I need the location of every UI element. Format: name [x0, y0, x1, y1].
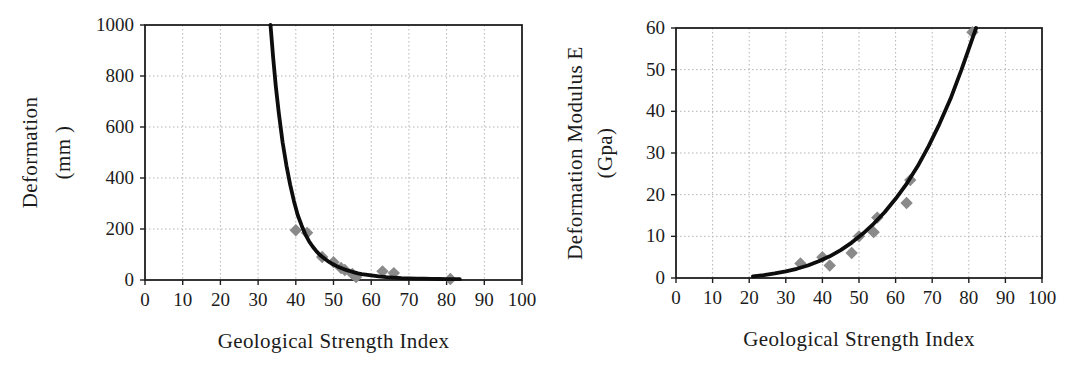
- x-tick-label: 60: [886, 287, 905, 308]
- x-tick-label: 10: [703, 287, 722, 308]
- y-tick-label: 60: [646, 17, 665, 38]
- y-tick-label: 400: [106, 167, 135, 188]
- x-tick-label: 80: [437, 289, 456, 310]
- y-tick-label: 1000: [96, 14, 134, 35]
- y-axis-title-line: Deformation: [18, 97, 42, 209]
- x-tick-label: 100: [1028, 287, 1057, 308]
- x-tick-label: 70: [399, 289, 418, 310]
- x-tick-label: 90: [475, 289, 494, 310]
- trend-curve: [271, 25, 460, 279]
- trend-curve: [753, 28, 976, 276]
- data-point-marker: [900, 197, 912, 209]
- x-tick-label: 0: [671, 287, 681, 308]
- y-axis-title-line: Deformation Modulus E: [563, 46, 587, 260]
- x-tick-label: 40: [813, 287, 832, 308]
- x-tick-label: 60: [362, 289, 381, 310]
- x-tick-label: 40: [286, 289, 305, 310]
- x-tick-label: 80: [959, 287, 978, 308]
- data-point-marker: [845, 247, 857, 259]
- y-tick-label: 20: [646, 184, 665, 205]
- modulus-vs-gsi-chart: 01020304050607080901000102030405060Geolo…: [540, 0, 1080, 379]
- x-tick-label: 30: [249, 289, 268, 310]
- x-tick-label: 30: [776, 287, 795, 308]
- two-panel-chart-figure: 010203040506070809010002004006008001000G…: [0, 0, 1080, 379]
- x-tick-label: 0: [140, 289, 150, 310]
- modulus-vs-gsi-plot: 01020304050607080901000102030405060Geolo…: [540, 0, 1080, 379]
- y-axis-title-line: (Gpa): [593, 128, 617, 179]
- x-axis-title: Geological Strength Index: [218, 329, 450, 353]
- y-axis-title-line: (mm ): [51, 126, 75, 180]
- y-tick-label: 10: [646, 225, 665, 246]
- x-axis-title: Geological Strength Index: [743, 327, 975, 351]
- deformation-vs-gsi-chart: 010203040506070809010002004006008001000G…: [0, 0, 540, 379]
- y-tick-label: 30: [646, 142, 665, 163]
- x-tick-label: 50: [850, 287, 869, 308]
- data-point-marker: [824, 259, 836, 271]
- x-tick-label: 20: [740, 287, 759, 308]
- x-tick-label: 10: [173, 289, 192, 310]
- x-tick-label: 50: [324, 289, 343, 310]
- x-tick-label: 70: [923, 287, 942, 308]
- deformation-vs-gsi-plot: 010203040506070809010002004006008001000G…: [0, 0, 540, 379]
- y-tick-label: 200: [106, 218, 135, 239]
- y-tick-label: 800: [106, 65, 135, 86]
- y-tick-label: 50: [646, 59, 665, 80]
- x-tick-label: 90: [996, 287, 1015, 308]
- x-tick-label: 100: [508, 289, 537, 310]
- y-tick-label: 40: [646, 100, 665, 121]
- x-tick-label: 20: [211, 289, 230, 310]
- y-tick-label: 600: [106, 116, 135, 137]
- y-tick-label: 0: [656, 267, 666, 288]
- y-tick-label: 0: [125, 269, 135, 290]
